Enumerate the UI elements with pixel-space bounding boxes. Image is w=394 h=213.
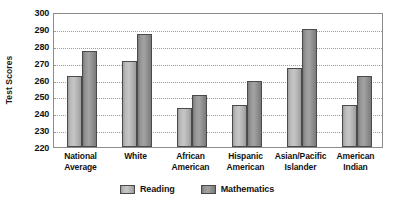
bar-group <box>287 14 317 147</box>
legend-item-mathematics[interactable]: Mathematics <box>201 184 274 194</box>
bar-reading[interactable] <box>342 105 357 147</box>
bars-layer <box>54 14 382 147</box>
legend-label: Reading <box>140 184 175 194</box>
x-axis-label-line1: Hispanic <box>228 151 263 161</box>
bar-mathematics[interactable] <box>302 29 317 147</box>
x-axis-label-line2: Islander <box>273 162 328 173</box>
legend-swatch-icon <box>120 185 135 194</box>
x-axis-label-line1: National <box>64 151 97 161</box>
bar-group <box>122 14 152 147</box>
x-axis-label-line2: American <box>163 162 218 173</box>
x-axis-label-line1: White <box>124 151 147 161</box>
x-axis-label-line2: American <box>218 162 273 173</box>
bar-mathematics[interactable] <box>247 81 262 147</box>
bar-mathematics[interactable] <box>357 76 372 147</box>
x-axis-label-line2: Average <box>53 162 108 173</box>
y-tick-label: 300 <box>35 8 49 18</box>
bar-mathematics[interactable] <box>192 95 207 147</box>
y-tick-label: 230 <box>35 126 49 136</box>
legend-label: Mathematics <box>221 184 274 194</box>
y-tick-label: 280 <box>35 42 49 52</box>
x-axis-label: AmericanIndian <box>328 151 383 172</box>
x-axis-label: HispanicAmerican <box>218 151 273 172</box>
bar-mathematics[interactable] <box>82 51 97 147</box>
y-axis-tick-labels: 300290280270260250240230220 <box>18 13 51 148</box>
x-axis-category-labels: NationalAverageWhiteAfricanAmericanHispa… <box>53 151 383 181</box>
x-axis-label: Asian/PacificIslander <box>273 151 328 172</box>
bar-chart: Test Scores 300290280270260250240230220 … <box>0 0 394 213</box>
x-axis-label: White <box>108 151 163 162</box>
bar-reading[interactable] <box>67 76 82 147</box>
chart-legend: ReadingMathematics <box>0 184 394 194</box>
bar-mathematics[interactable] <box>137 34 152 147</box>
bar-group <box>177 14 207 147</box>
y-tick-label: 220 <box>35 143 49 153</box>
y-tick-label: 290 <box>35 25 49 35</box>
bar-group <box>232 14 262 147</box>
x-axis-label: NationalAverage <box>53 151 108 172</box>
bar-group <box>67 14 97 147</box>
x-axis-label-line2: Indian <box>328 162 383 173</box>
bar-reading[interactable] <box>122 61 137 147</box>
bar-reading[interactable] <box>232 105 247 147</box>
x-axis-label-line1: African <box>176 151 205 161</box>
x-axis-label-line1: Asian/Pacific <box>275 151 327 161</box>
y-tick-label: 270 <box>35 59 49 69</box>
x-axis-label-line1: American <box>337 151 375 161</box>
y-tick-label: 250 <box>35 92 49 102</box>
y-tick-label: 260 <box>35 76 49 86</box>
bar-reading[interactable] <box>287 68 302 147</box>
x-axis-label: AfricanAmerican <box>163 151 218 172</box>
bar-reading[interactable] <box>177 108 192 147</box>
plot-area <box>53 13 383 148</box>
y-tick-label: 240 <box>35 109 49 119</box>
legend-item-reading[interactable]: Reading <box>120 184 175 194</box>
bar-group <box>342 14 372 147</box>
legend-swatch-icon <box>201 185 216 194</box>
y-axis-title-label: Test Scores <box>4 56 14 105</box>
y-axis-title: Test Scores <box>0 0 18 160</box>
